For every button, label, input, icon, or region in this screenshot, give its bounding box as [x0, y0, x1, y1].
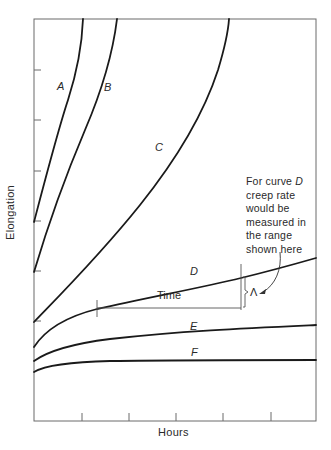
- y-axis-label: Elongation: [4, 185, 16, 240]
- curve-label-f: F: [191, 346, 198, 358]
- arrow-head-icon: [259, 289, 266, 294]
- annotation-line-2: creep rate: [246, 189, 326, 203]
- x-axis-label: Hours: [158, 426, 189, 438]
- x-axis-ticks: [82, 412, 271, 421]
- curve-c: [34, 19, 229, 322]
- annotation-curve-ref: D: [295, 175, 303, 187]
- annotation-line-4: measured in: [246, 216, 326, 230]
- annotation-line-5: the range: [246, 229, 326, 243]
- curve-label-d: D: [190, 265, 198, 277]
- curve-b: [34, 19, 117, 272]
- curve-label-c: C: [155, 141, 163, 153]
- delta-label: Λ: [250, 286, 257, 298]
- time-label: Time: [157, 289, 181, 301]
- curve-label-e: E: [190, 320, 197, 332]
- annotation-line-3: would be: [246, 202, 326, 216]
- curve-label-a: A: [57, 80, 64, 92]
- curve-label-b: B: [104, 81, 111, 93]
- curve-f: [34, 360, 316, 372]
- annotation-line-6: shown here: [246, 243, 326, 257]
- curve-a: [34, 19, 83, 222]
- curve-e: [34, 325, 316, 361]
- creep-rate-annotation: For curve D creep rate would be measured…: [246, 175, 326, 256]
- annotation-line-1: For curve: [246, 175, 295, 187]
- y-axis-ticks: [34, 70, 41, 321]
